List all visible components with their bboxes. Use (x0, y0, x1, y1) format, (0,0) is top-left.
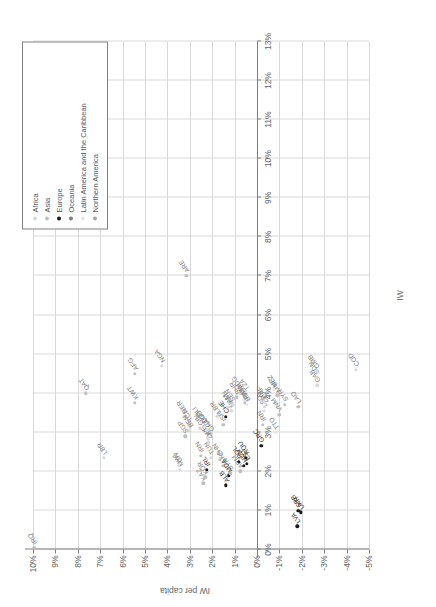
legend-label: Northern America (91, 154, 100, 212)
legend-marker-icon (45, 216, 49, 220)
scatter-point (230, 409, 233, 412)
scatter-point (283, 403, 286, 406)
y-tick-label: 8% (73, 555, 83, 585)
x-tick-label: 7% (263, 269, 273, 281)
chart-page: 0%1%2%3%4%5%6%7%8%9%10%11%12%13%10%9%8%7… (0, 0, 436, 607)
x-tick-label: 13% (263, 32, 273, 49)
scatter-point (297, 405, 300, 408)
legend-label: Europe (55, 188, 64, 212)
point-label: LBR (96, 441, 109, 455)
y-tick-label: 2% (207, 555, 217, 585)
x-tick-label: 2% (263, 465, 273, 477)
x-axis-title: IW (395, 41, 405, 549)
x-tick-label: 6% (263, 308, 273, 320)
x-gridline (33, 509, 369, 510)
y-gridline (167, 41, 168, 549)
x-gridline (33, 274, 369, 275)
point-label: AFG (127, 356, 140, 371)
scatter-point (260, 444, 263, 447)
legend-item: Northern America (89, 50, 101, 220)
y-tick (212, 549, 213, 553)
y-tick-label: 5% (140, 555, 150, 585)
y-tick-label: 0% (252, 555, 262, 585)
y-gridline (235, 41, 236, 549)
scatter-point (245, 403, 248, 406)
x-gridline (33, 235, 369, 236)
scatter-point (133, 401, 136, 404)
point-label: BOL (239, 388, 252, 403)
x-tick-label: 12% (263, 72, 273, 89)
x-tick-label: 9% (263, 191, 273, 203)
y-tick (145, 549, 146, 553)
y-tick-label: -3% (319, 555, 329, 585)
y-tick-label: 10% (28, 555, 38, 585)
y-gridline (123, 41, 124, 549)
y-tick (33, 549, 34, 553)
scatter-point (222, 422, 225, 425)
y-tick (190, 549, 191, 553)
scatter-point (160, 364, 163, 367)
rotated-figure: 0%1%2%3%4%5%6%7%8%9%10%11%12%13%10%9%8%7… (0, 0, 436, 607)
y-tick (235, 549, 236, 553)
x-tick-label: 1% (263, 504, 273, 516)
x-tick-label: 5% (263, 347, 273, 359)
legend-label: Africa (31, 193, 40, 212)
y-gridline (302, 41, 303, 549)
legend-label: Asia (43, 197, 52, 212)
x-tick-label: 11% (263, 111, 273, 127)
legend-label: Latin America and the Caribbean (79, 103, 88, 212)
y-gridline (190, 41, 191, 549)
legend-item: Oceania (65, 50, 77, 220)
legend-marker-icon (69, 216, 73, 220)
legend-marker-icon (81, 216, 85, 220)
y-tick (347, 549, 348, 553)
y-tick (100, 549, 101, 553)
legend-item: Latin America and the Caribbean (77, 50, 89, 220)
y-gridline (279, 41, 280, 549)
point-label: QAT (78, 376, 91, 390)
y-tick (369, 549, 370, 553)
legend-marker-icon (93, 216, 97, 220)
x-tick-label: 10% (263, 150, 273, 167)
y-tick (123, 549, 124, 553)
x-axis-line (257, 41, 258, 557)
y-tick-label: 7% (95, 555, 105, 585)
y-axis-line (25, 548, 369, 549)
scatter-point (316, 383, 319, 386)
y-tick-label: -5% (364, 555, 374, 585)
y-gridline (212, 41, 213, 549)
y-axis-title: IW per capita (140, 585, 230, 595)
y-tick-label: 6% (118, 555, 128, 585)
y-gridline (324, 41, 325, 549)
chart-legend: AfricaAsiaEuropeOceaniaLatin America and… (22, 41, 108, 229)
legend-marker-icon (33, 216, 37, 220)
y-tick-label: 9% (50, 555, 60, 585)
y-tick (167, 549, 168, 553)
legend-item: Asia (41, 50, 53, 220)
y-tick-label: -1% (274, 555, 284, 585)
y-tick-label: -4% (342, 555, 352, 585)
legend-item: Europe (53, 50, 65, 220)
legend-label: Oceania (67, 184, 76, 212)
y-tick-label: -2% (297, 555, 307, 585)
y-tick (78, 549, 79, 553)
y-tick-label: 3% (185, 555, 195, 585)
y-tick (302, 549, 303, 553)
scatter-point (278, 412, 281, 415)
x-tick-label: 8% (263, 230, 273, 242)
legend-marker-icon (57, 216, 61, 220)
y-tick (55, 549, 56, 553)
y-tick-label: 1% (230, 555, 240, 585)
y-gridline (347, 41, 348, 549)
legend-item: Africa (29, 50, 41, 220)
x-gridline (33, 353, 369, 354)
x-gridline (33, 314, 369, 315)
y-gridline (369, 41, 370, 549)
point-label: IRQ (27, 532, 39, 545)
y-tick (279, 549, 280, 553)
y-tick-label: 4% (162, 555, 172, 585)
y-tick (324, 549, 325, 553)
y-gridline (145, 41, 146, 549)
point-label: NGA (153, 348, 167, 363)
